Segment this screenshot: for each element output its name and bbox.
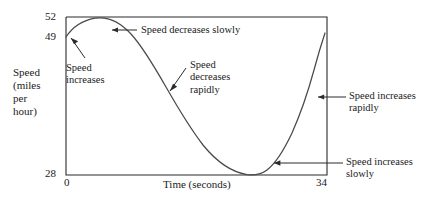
y-axis-title: Speed (miles per hour) (13, 66, 41, 118)
x-tick-0: 0 (64, 176, 70, 189)
speed-curve (66, 18, 325, 175)
annotation-leaders (71, 27, 346, 165)
x-axis-title: Time (seconds) (163, 178, 231, 191)
y-tick-52: 52 (45, 10, 56, 23)
annotation-speed-decreases-rapidly: Speed decreases rapidly (190, 59, 230, 96)
annotation-speed-increases-rapidly: Speed increases rapidly (349, 90, 416, 115)
y-tick-49: 49 (45, 30, 56, 43)
x-tick-34: 34 (316, 176, 327, 189)
annotation-speed-decreases-slowly: Speed decreases slowly (141, 24, 240, 36)
chart-figure: 52 49 28 0 34 Speed (miles per hour) Tim… (0, 0, 436, 203)
annotation-speed-increases-slowly: Speed increases slowly (346, 156, 413, 181)
annotation-speed-increases: Speed increases (66, 62, 104, 87)
y-tick-28: 28 (45, 167, 56, 180)
